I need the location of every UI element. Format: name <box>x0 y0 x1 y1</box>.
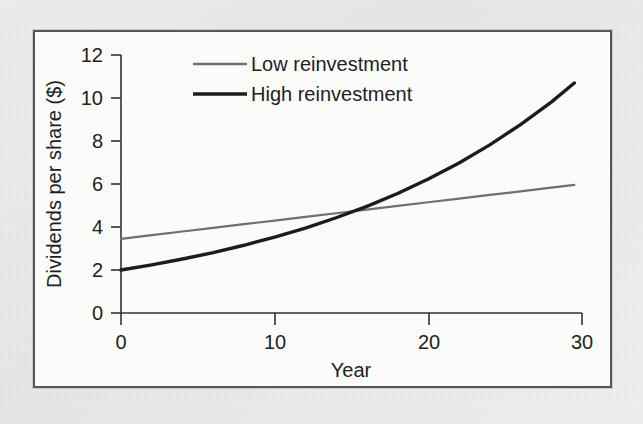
figure-frame: 12 10 8 6 4 2 0 0 10 20 30 Year Dividend… <box>33 30 612 388</box>
line-chart: 12 10 8 6 4 2 0 0 10 20 30 Year Dividend… <box>35 32 610 386</box>
y-tick-label-4: 4 <box>92 216 103 238</box>
y-tick-label-6: 6 <box>92 173 103 195</box>
chart-legend: Low reinvestment High reinvestment <box>193 53 413 105</box>
series-line-high-reinvestment <box>121 83 574 270</box>
y-tick-label-0: 0 <box>92 302 103 324</box>
y-axis-ticks <box>111 55 121 313</box>
x-tick-label-10: 10 <box>264 331 286 353</box>
x-tick-label-30: 30 <box>571 331 593 353</box>
x-axis-ticks <box>121 313 582 325</box>
y-tick-label-8: 8 <box>92 130 103 152</box>
y-tick-label-10: 10 <box>81 87 103 109</box>
legend-label-high-reinvestment: High reinvestment <box>251 83 413 105</box>
legend-label-low-reinvestment: Low reinvestment <box>251 53 408 75</box>
x-axis-title: Year <box>331 359 372 381</box>
y-axis-title: Dividends per share ($) <box>43 80 65 288</box>
y-tick-label-2: 2 <box>92 259 103 281</box>
x-tick-label-20: 20 <box>418 331 440 353</box>
y-tick-label-12: 12 <box>81 44 103 66</box>
x-tick-label-0: 0 <box>115 331 126 353</box>
